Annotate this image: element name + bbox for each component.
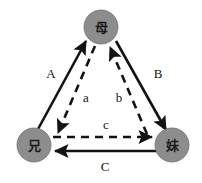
node-mother[interactable]: 母 [84,10,118,44]
diagram-canvas: 母 兄 妹 A a B b c C [0,0,202,183]
edge-label-a: a [83,90,89,105]
edge-label-A: A [46,66,56,81]
node-elder-brother-label: 兄 [27,138,41,153]
edge-label-C: C [101,159,110,174]
node-mother-label: 母 [95,20,108,35]
edge-label-c: c [103,117,109,132]
node-elder-brother[interactable]: 兄 [17,128,51,162]
edge-label-b: b [116,90,123,105]
edge-label-B: B [154,66,163,81]
kinship-relation-diagram: 母 兄 妹 A a B b c C [0,0,202,183]
node-younger-sister-label: 妹 [165,138,180,153]
node-younger-sister[interactable]: 妹 [155,128,189,162]
